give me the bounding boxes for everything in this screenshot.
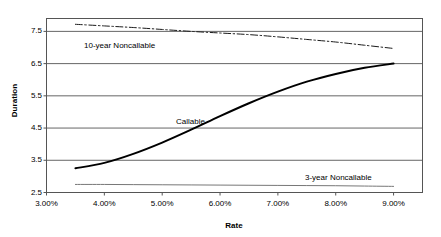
series-label-2: 3-year Noncallable [305,173,372,182]
x-tick-label: 9.00% [369,199,419,208]
y-tick-label: 5.5 [16,92,42,100]
x-tick-label: 3.00% [22,199,72,208]
chart-container: Duration 2.53.54.55.56.57.5 3.00%4.00%5.… [0,0,441,237]
series-line-1 [75,64,393,169]
x-tick-label: 6.00% [195,199,245,208]
y-tick-label: 6.5 [16,60,42,68]
x-tick-label: 7.00% [253,199,303,208]
x-axis-title: Rate [46,221,422,230]
x-tick-label: 8.00% [311,199,361,208]
y-tick-label: 3.5 [16,156,42,164]
x-tick-label: 4.00% [79,199,129,208]
series-label-1: Callable [176,117,205,126]
y-tick-label: 4.5 [16,124,42,132]
y-tick-label: 2.5 [16,189,42,197]
series-label-0: 10-year Noncallable [84,41,155,50]
x-tick-label: 5.00% [137,199,187,208]
y-tick-label: 7.5 [16,27,42,35]
series-line-2 [75,184,393,186]
gridlines [47,31,423,160]
